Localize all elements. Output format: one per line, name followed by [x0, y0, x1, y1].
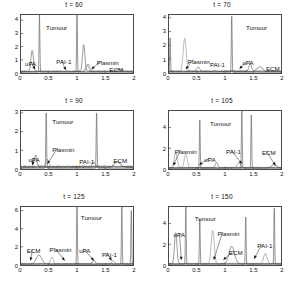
plot-area: PlasminPAI-1TumouruPAECM [168, 14, 282, 74]
x-tick-label: 2 [132, 171, 135, 177]
annotation-label: PAI-1 [257, 243, 272, 249]
y-tick-label: 3 [15, 30, 18, 36]
x-tick-label: 0 [166, 171, 169, 177]
annotation-label: Plasmin [217, 231, 239, 237]
annotation-label: uPA [174, 232, 185, 238]
y-tick-label: 4 [163, 124, 166, 130]
annotation-label: PAI-1 [102, 252, 117, 258]
x-tick-label: 1.5 [249, 171, 257, 177]
subplot-title: t = 70 [148, 1, 296, 8]
y-axis-tick-labels: 024 [148, 206, 168, 266]
x-tick-label: 2 [280, 171, 283, 177]
x-tick-label: 1.5 [101, 171, 109, 177]
x-tick-label: 0.5 [44, 171, 52, 177]
y-axis-tick-labels: 0246 [0, 206, 20, 266]
subplot-title: t = 150 [148, 193, 296, 200]
y-tick-label: 2 [163, 242, 166, 248]
y-axis-tick-labels: 01234 [148, 14, 168, 74]
annotation-label: uPA [204, 157, 215, 163]
plot-area: TumourPlasminuPAPAI-1ECM [20, 110, 134, 170]
x-tick-label: 0 [166, 267, 169, 273]
x-tick-label: 1 [223, 267, 226, 273]
y-tick-label: 4 [15, 16, 18, 22]
y-tick-label: 2 [15, 128, 18, 134]
annotation-label: uPA [28, 157, 39, 163]
x-tick-label: 1 [75, 171, 78, 177]
x-tick-label: 0.5 [192, 267, 200, 273]
subplot-70: t = 700123400.511.52PlasminPAI-1TumouruP… [148, 0, 296, 96]
annotation-label: uPA [25, 61, 36, 67]
annotation-label: Plasmin [50, 247, 72, 253]
annotation-label: PAI-1 [226, 149, 241, 155]
y-tick-label: 3 [15, 109, 18, 115]
annotation-label: ECM [262, 150, 276, 156]
x-tick-label: 1.5 [249, 267, 257, 273]
x-tick-label: 2 [280, 267, 283, 273]
subplot-title: t = 60 [0, 1, 148, 8]
x-tick-label: 1 [75, 267, 78, 273]
annotation-label: ECM [109, 67, 123, 73]
annotation-label: ECM [266, 66, 280, 72]
x-tick-label: 0 [18, 171, 21, 177]
y-tick-label: 2 [15, 244, 18, 250]
annotation-label: uPA [79, 248, 90, 254]
x-tick-label: 0.5 [192, 75, 200, 81]
annotation-label: PAI-1 [56, 59, 71, 65]
subplot-title: t = 125 [0, 193, 148, 200]
x-tick-label: 0.5 [192, 171, 200, 177]
annotation-label: Tumour [210, 121, 231, 127]
x-axis-tick-labels: 00.511.52 [20, 267, 134, 279]
y-tick-label: 2 [163, 146, 166, 152]
annotation-label: Plasmin [52, 147, 74, 153]
x-tick-label: 1 [75, 75, 78, 81]
y-tick-label: 1 [163, 57, 166, 63]
y-axis-tick-labels: 0123 [0, 110, 20, 170]
annotation-label: uPA [243, 60, 254, 66]
y-axis-tick-labels: 01234 [0, 14, 20, 74]
x-tick-label: 0.5 [44, 75, 52, 81]
subplot-150: t = 15002400.511.52uPATumourPlasminECMPA… [148, 192, 296, 288]
x-tick-label: 2 [132, 267, 135, 273]
x-axis-tick-labels: 00.511.52 [168, 267, 282, 279]
x-axis-tick-labels: 00.511.52 [20, 171, 134, 183]
y-tick-label: 1 [15, 57, 18, 63]
subplot-125: t = 125024600.511.52ECMPlasminTumouruPAP… [0, 192, 148, 288]
subplot-title: t = 90 [0, 97, 148, 104]
plot-area: ECMPlasminTumouruPAPAI-1 [20, 206, 134, 266]
plot-area: PlasminTumouruPAPAI-1ECM [168, 110, 282, 170]
x-tick-label: 2 [132, 75, 135, 81]
annotation-label: PAI-1 [210, 62, 225, 68]
annotation-label: Tumour [195, 216, 216, 222]
figure-grid: t = 600123400.511.52uPATumourPAI-1Plasmi… [0, 0, 296, 288]
y-tick-label: 2 [163, 42, 166, 48]
subplot-90: t = 90012300.511.52TumourPlasminuPAPAI-1… [0, 96, 148, 192]
annotation-label: Tumour [246, 25, 267, 31]
y-tick-label: 4 [163, 220, 166, 226]
subplot-60: t = 600123400.511.52uPATumourPAI-1Plasmi… [0, 0, 148, 96]
y-axis-tick-labels: 024 [148, 110, 168, 170]
x-axis-tick-labels: 00.511.52 [168, 75, 282, 87]
annotation-label: Plasmin [188, 59, 210, 65]
annotation-label: ECM [113, 158, 127, 164]
x-axis-tick-labels: 00.511.52 [168, 171, 282, 183]
y-tick-label: 4 [15, 226, 18, 232]
x-tick-label: 1.5 [101, 75, 109, 81]
annotation-label: PAI-1 [79, 159, 94, 165]
annotation-label: ECM [27, 248, 41, 254]
y-tick-label: 4 [163, 14, 166, 20]
annotation-label: Tumour [46, 25, 67, 31]
subplot-105: t = 10502400.511.52PlasminTumouruPAPAI-1… [148, 96, 296, 192]
y-tick-label: 1 [15, 148, 18, 154]
annotation-label: Plasmin [175, 149, 197, 155]
x-tick-label: 1.5 [249, 75, 257, 81]
x-tick-label: 1.5 [101, 267, 109, 273]
x-tick-label: 1 [223, 75, 226, 81]
x-tick-label: 1 [223, 171, 226, 177]
y-tick-label: 6 [15, 207, 18, 213]
x-tick-label: 0 [166, 75, 169, 81]
subplot-title: t = 105 [148, 97, 296, 104]
series-curve-ecm [169, 165, 281, 169]
x-tick-label: 0 [18, 267, 21, 273]
y-tick-label: 3 [163, 28, 166, 34]
plot-area: uPATumourPAI-1PlasminECM [20, 14, 134, 74]
